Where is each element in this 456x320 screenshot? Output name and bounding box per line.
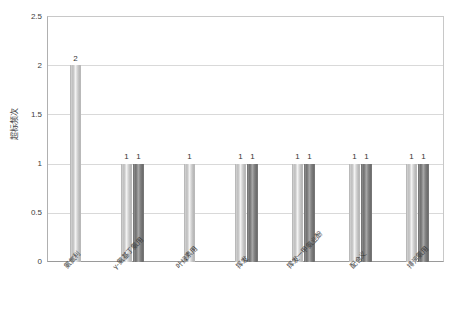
bar-item[interactable]: 1 (304, 16, 315, 262)
bar[interactable] (235, 164, 246, 262)
bar-chart: 超标频次 2.5 2 1.5 1 0.5 0 2 1 1 (0, 0, 456, 320)
bar-value-label: 1 (409, 152, 413, 161)
bar-group: 1 1 (389, 16, 446, 262)
bar-group: 1 1 (218, 16, 275, 262)
bar-value-label: 1 (187, 152, 191, 161)
y-tick-label: 1 (8, 159, 42, 168)
bar-item[interactable]: 2 (70, 16, 81, 262)
bar-group: 1 (161, 16, 218, 262)
bar-value-label: 1 (307, 152, 311, 161)
y-tick-label: 0.5 (8, 208, 42, 217)
x-axis-tick-labels: 氨氮利 γ-氨基丁氨用 叶绿素用 挥发 挥发一甲氨业酚 配合义 排污氨用 (47, 264, 444, 320)
y-tick-label: 0 (8, 257, 42, 266)
bar[interactable] (349, 164, 360, 262)
bar[interactable] (247, 164, 258, 262)
y-tick-label: 1.5 (8, 110, 42, 119)
bar-item[interactable]: 1 (235, 16, 246, 262)
bar-item[interactable]: 1 (418, 16, 429, 262)
y-tick-label: 2.5 (8, 12, 42, 21)
bar-group: 2 (47, 16, 104, 262)
bar-value-label: 2 (73, 54, 77, 63)
bar-value-label: 1 (352, 152, 356, 161)
bar[interactable] (70, 65, 81, 262)
bar-item[interactable]: 1 (361, 16, 372, 262)
bar-item[interactable]: 1 (349, 16, 360, 262)
bar-item[interactable]: 1 (406, 16, 417, 262)
bar-item[interactable]: 1 (133, 16, 144, 262)
bar-group: 1 1 (104, 16, 161, 262)
bar-value-label: 1 (421, 152, 425, 161)
bar-group: 1 1 (332, 16, 389, 262)
bar-value-label: 1 (124, 152, 128, 161)
bar[interactable] (406, 164, 417, 262)
y-tick-label: 2 (8, 61, 42, 70)
bar-value-label: 1 (295, 152, 299, 161)
bar[interactable] (361, 164, 372, 262)
bar-value-label: 1 (136, 152, 140, 161)
bars-layer: 2 1 1 1 1 1 (47, 16, 444, 262)
bar-item[interactable]: 1 (292, 16, 303, 262)
bar-value-label: 1 (364, 152, 368, 161)
bar-item[interactable]: 1 (121, 16, 132, 262)
bar-item[interactable]: 1 (247, 16, 258, 262)
bar-group: 1 1 (275, 16, 332, 262)
bar-value-label: 1 (238, 152, 242, 161)
bar-value-label: 1 (250, 152, 254, 161)
bar-item[interactable]: 1 (184, 16, 195, 262)
